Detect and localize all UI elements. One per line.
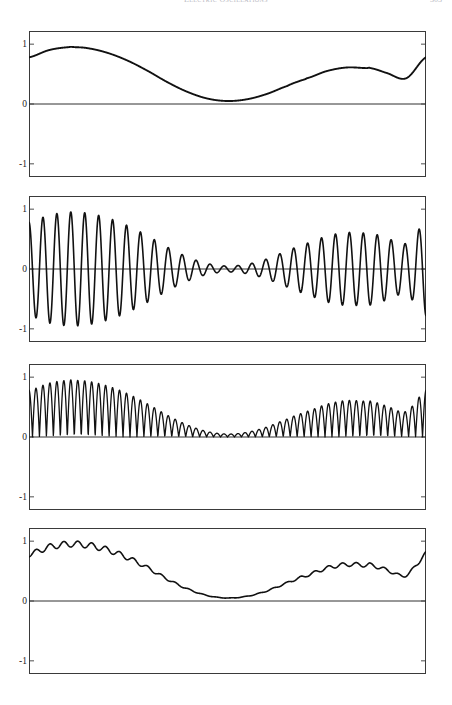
y-tick-label: 1 [22,39,27,49]
panel-curve-smoothed-ripple [29,528,426,674]
y-tick-label: 1 [22,372,27,382]
y-tick-label: -1 [19,324,27,334]
plot-panel-rectified-power: -101 [29,364,426,510]
data-curve [29,212,426,326]
y-tick-label: -1 [19,492,27,502]
panel-curve-envelope [29,31,426,177]
y-axis-labels: -101 [3,196,27,342]
panel-curve-modulated-carrier [29,196,426,342]
y-tick-label: 0 [22,596,27,606]
data-curve [29,541,426,598]
y-tick-label: 1 [22,536,27,546]
data-curve [29,380,426,437]
figure-oscillation-panels: -101 -101 -101 -101 [0,0,452,705]
plot-panel-envelope: -101 [29,31,426,177]
y-axis-labels: -101 [3,364,27,510]
y-tick-label: 1 [22,204,27,214]
y-tick-label: 0 [22,99,27,109]
y-tick-label: -1 [19,656,27,666]
panel-curve-rectified-power [29,364,426,510]
y-axis-labels: -101 [3,528,27,674]
y-tick-label: 0 [22,432,27,442]
y-tick-label: 0 [22,264,27,274]
plot-panel-smoothed-ripple: -101 [29,528,426,674]
plot-panel-modulated-carrier: -101 [29,196,426,342]
y-axis-labels: -101 [3,31,27,177]
data-curve [29,47,426,101]
y-tick-label: -1 [19,159,27,169]
